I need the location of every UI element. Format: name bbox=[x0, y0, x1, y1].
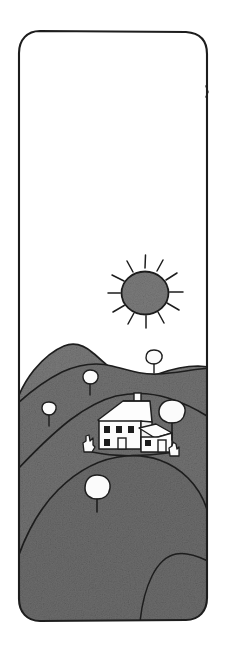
sun-disc bbox=[122, 272, 169, 315]
house-wing-window bbox=[145, 440, 151, 446]
house-upper-window-2 bbox=[116, 426, 122, 433]
tree-right-canopy bbox=[159, 400, 185, 423]
tree-midslope-canopy bbox=[83, 370, 98, 384]
sky-area bbox=[18, 29, 210, 389]
house-front-door bbox=[118, 438, 126, 449]
tree-left-slope-canopy bbox=[42, 402, 56, 415]
house-lower-window-1 bbox=[104, 439, 110, 446]
illustration-page: Hilly Landscape with Farmhouse and Sun A… bbox=[0, 0, 226, 654]
tree-foreground-canopy bbox=[85, 475, 110, 499]
house-wing-door bbox=[158, 440, 166, 452]
house-upper-window-1 bbox=[104, 426, 110, 433]
tree-ridge-top-canopy bbox=[146, 350, 162, 364]
landscape-illustration bbox=[0, 0, 226, 654]
house-upper-window-3 bbox=[128, 426, 134, 433]
